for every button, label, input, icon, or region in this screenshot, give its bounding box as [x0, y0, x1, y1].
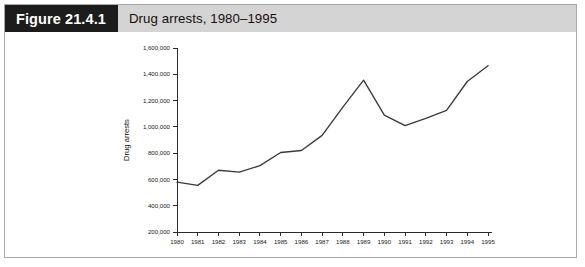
figure-container: Figure 21.4.1 Drug arrests, 1980–1995 20…	[0, 0, 585, 267]
y-axis-ticks: 200,000400,000600,000800,0001,000,0001,2…	[143, 44, 177, 235]
x-tick-label: 1989	[357, 238, 371, 245]
x-tick-label: 1981	[191, 238, 205, 245]
x-tick-label: 1985	[274, 238, 288, 245]
x-tick-label: 1990	[378, 238, 392, 245]
line-chart: 200,000400,000600,000800,0001,000,0001,2…	[5, 32, 576, 257]
x-tick-label: 1986	[295, 238, 309, 245]
y-axis-title: Drug arrests	[122, 119, 131, 161]
x-axis-ticks: 1980198119821983198419851986198719881989…	[170, 232, 495, 245]
x-tick-label: 1983	[232, 238, 246, 245]
x-tick-label: 1988	[336, 238, 350, 245]
figure-header-bar: Figure 21.4.1 Drug arrests, 1980–1995	[5, 5, 576, 32]
y-tick-label: 1,600,000	[143, 44, 171, 51]
y-tick-label: 200,000	[148, 228, 171, 235]
x-tick-label: 1980	[170, 238, 184, 245]
figure-number-badge: Figure 21.4.1	[5, 5, 118, 32]
x-tick-label: 1991	[398, 238, 412, 245]
y-tick-label: 800,000	[148, 149, 171, 156]
x-tick-label: 1993	[440, 238, 454, 245]
y-tick-label: 1,000,000	[143, 123, 171, 130]
y-tick-label: 1,200,000	[143, 97, 171, 104]
x-tick-label: 1984	[253, 238, 267, 245]
drug-arrests-line	[177, 66, 488, 186]
y-tick-label: 600,000	[148, 176, 171, 183]
y-tick-label: 1,400,000	[143, 70, 171, 77]
x-tick-label: 1987	[315, 238, 329, 245]
figure-caption: Drug arrests, 1980–1995	[118, 5, 277, 32]
x-tick-label: 1995	[481, 238, 495, 245]
x-tick-label: 1992	[419, 238, 433, 245]
y-tick-label: 400,000	[148, 202, 171, 209]
x-tick-label: 1994	[460, 238, 474, 245]
x-tick-label: 1982	[212, 238, 226, 245]
chart-plot-area: 200,000400,000600,000800,0001,000,0001,2…	[5, 32, 576, 257]
